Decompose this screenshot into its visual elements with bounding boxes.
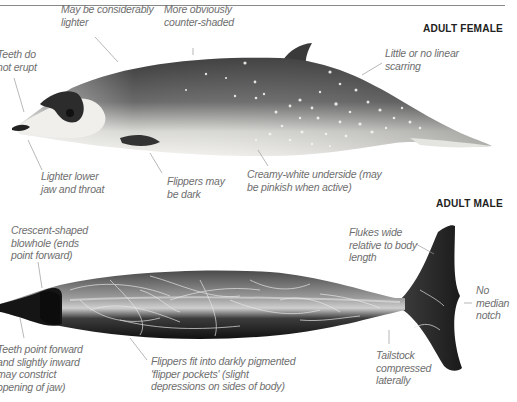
label-tailstock-compressed: Tailstock compressed laterally (376, 349, 431, 387)
label-little-scarring: Little or no linear scarring (385, 47, 459, 72)
label-creamy-underside: Creamy-white underside (may be pinkish w… (247, 168, 382, 193)
label-crescent-blowhole: Crescent-shaped blowhole (ends point for… (11, 224, 88, 262)
label-flippers-dark: Flippers may be dark (167, 175, 225, 200)
label-counter-shaded: More obviously counter-shaded (164, 3, 234, 28)
label-flukes-wide: Flukes wide relative to body length (349, 226, 417, 264)
label-flipper-pockets: Flippers fit into darkly pigmented 'flip… (151, 355, 295, 393)
label-may-be-lighter: May be considerably lighter (61, 3, 154, 28)
adult-male-title: ADULT MALE (436, 197, 503, 209)
label-teeth-do-not-erupt: Teeth do not erupt (0, 48, 37, 73)
label-teeth-point-forward: Teeth point forward and slightly inward … (0, 343, 83, 393)
adult-female-title: ADULT FEMALE (423, 22, 503, 34)
label-lighter-jaw: Lighter lower jaw and throat (41, 170, 104, 195)
label-no-median-notch: No median notch (476, 284, 509, 322)
